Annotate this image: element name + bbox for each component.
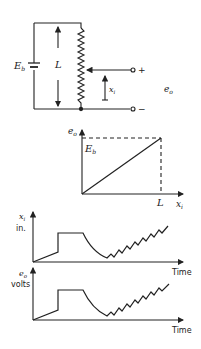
output-graph bbox=[33, 268, 183, 320]
input-y-label: xi bbox=[19, 212, 26, 222]
circuit-diagram bbox=[28, 23, 135, 111]
terminal-plus bbox=[131, 68, 135, 72]
resistor-icon bbox=[78, 28, 84, 109]
potentiometer-figure: Eb L xi eo + − eo Eb L xi xi in. Time eo… bbox=[0, 0, 201, 349]
battery-label: Eb bbox=[13, 60, 25, 72]
output-signal bbox=[33, 284, 169, 320]
output-voltage-label: eo bbox=[164, 84, 173, 95]
input-graph bbox=[33, 212, 183, 262]
output-y-unit: volts bbox=[11, 280, 30, 289]
plus-sign: + bbox=[138, 65, 146, 75]
length-label: L bbox=[54, 59, 62, 70]
terminal-minus bbox=[131, 107, 135, 111]
input-y-unit: in. bbox=[16, 224, 26, 233]
transfer-max-label: Eb bbox=[84, 143, 96, 155]
output-y-label: eo bbox=[19, 269, 28, 279]
displacement-label: xi bbox=[109, 85, 116, 95]
transfer-x-label: xi bbox=[176, 199, 183, 210]
transfer-y-label: eo bbox=[68, 126, 77, 137]
input-x-label: Time bbox=[171, 268, 192, 277]
minus-sign: − bbox=[138, 104, 146, 114]
transfer-xmax-label: L bbox=[156, 197, 164, 208]
battery-icon bbox=[28, 63, 40, 67]
transfer-graph bbox=[82, 130, 183, 194]
output-x-label: Time bbox=[171, 326, 192, 335]
input-signal bbox=[33, 226, 168, 262]
transfer-line bbox=[82, 138, 161, 194]
